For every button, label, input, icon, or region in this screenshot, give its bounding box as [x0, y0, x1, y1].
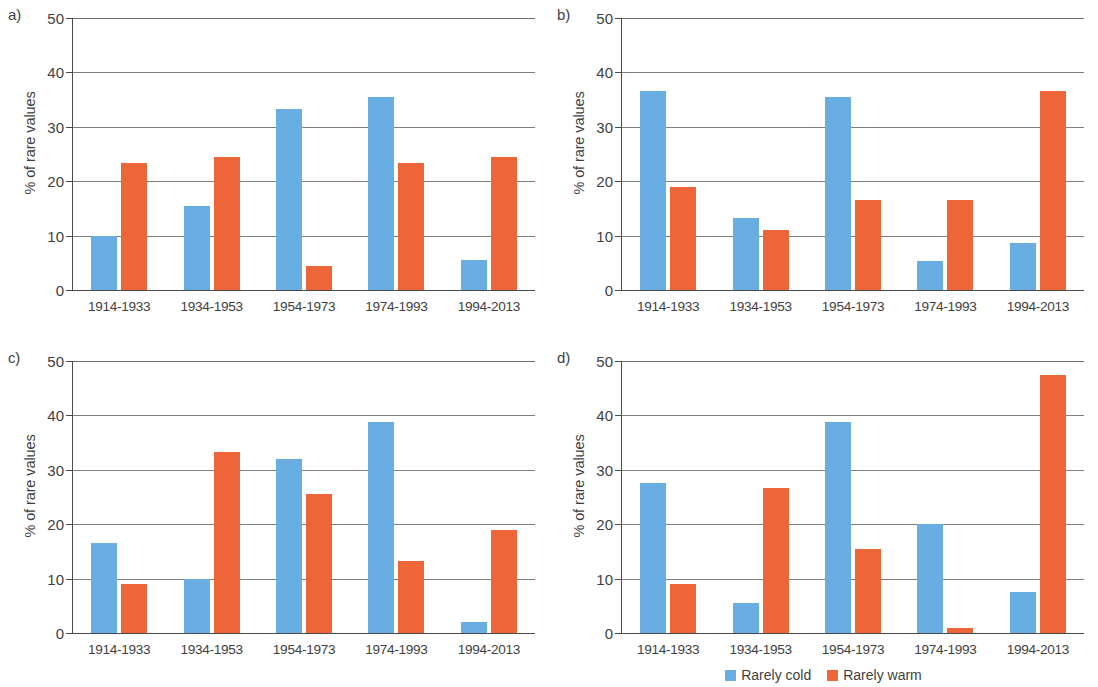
bar-warm [670, 584, 696, 633]
bar-cold [91, 236, 117, 290]
x-tick-label: 1974-1993 [350, 642, 442, 657]
y-tick-label-10: 10 [47, 570, 64, 587]
bar-cold [640, 483, 666, 633]
x-tick-label: 1914-1933 [622, 642, 714, 657]
y-tick-label-40: 40 [596, 407, 613, 424]
bar-cold [368, 422, 394, 633]
y-tick-0 [66, 290, 73, 291]
bar-cold [733, 218, 759, 290]
y-axis-title-a: % of rare values [22, 28, 44, 258]
bar-cold [917, 524, 943, 633]
x-tick-label: 1954-1973 [807, 642, 899, 657]
bar-group [807, 361, 899, 633]
bar-group [992, 18, 1084, 290]
y-tick-label-30: 30 [596, 461, 613, 478]
y-tick-label-0: 0 [605, 625, 613, 642]
bar-warm [214, 157, 240, 290]
bar-group [992, 361, 1084, 633]
y-tick-label-50: 50 [47, 10, 64, 27]
x-tick-label: 1974-1993 [899, 299, 991, 314]
legend-label: Rarely warm [843, 667, 922, 683]
y-tick-label-50: 50 [47, 353, 64, 370]
chart-panel-d: d) % of rare values 01020304050 1914-193… [549, 343, 1098, 687]
bar-group [443, 18, 535, 290]
x-tick-label: 1974-1993 [350, 299, 442, 314]
bar-warm [306, 266, 332, 290]
y-tick-label-20: 20 [47, 173, 64, 190]
x-tick-label: 1934-1953 [165, 299, 257, 314]
y-tick-0 [66, 633, 73, 634]
y-tick-label-20: 20 [596, 516, 613, 533]
bar-warm [491, 530, 517, 633]
y-tick-label-0: 0 [605, 282, 613, 299]
chart-panel-c: c) % of rare values 01020304050 1914-193… [0, 343, 549, 687]
y-tick-label-10: 10 [596, 227, 613, 244]
bar-group [714, 18, 806, 290]
x-tick-label: 1994-2013 [443, 642, 535, 657]
gridline-0 [73, 633, 535, 634]
y-tick-0 [615, 633, 622, 634]
legend-entry: Rarely warm [827, 667, 922, 683]
bar-cold [825, 422, 851, 633]
bar-warm [855, 200, 881, 290]
y-tick-0 [615, 290, 622, 291]
plot-area-a: 01020304050 [73, 18, 535, 290]
gridline-0 [622, 290, 1084, 291]
plot-area-d: 01020304050 [622, 361, 1084, 633]
gridline-0 [622, 633, 1084, 634]
bar-series-c [73, 361, 535, 633]
x-tick-label: 1914-1933 [622, 299, 714, 314]
bar-warm [947, 200, 973, 290]
y-tick-label-10: 10 [596, 570, 613, 587]
bar-warm [1040, 91, 1066, 290]
bar-warm [670, 187, 696, 290]
bar-warm [763, 488, 789, 633]
x-tick-label: 1974-1993 [899, 642, 991, 657]
legend-swatch-icon [827, 670, 838, 681]
bar-warm [398, 163, 424, 290]
x-tick-label: 1994-2013 [992, 299, 1084, 314]
bar-warm [214, 452, 240, 633]
x-tick-label: 1954-1973 [807, 299, 899, 314]
y-tick-label-40: 40 [47, 407, 64, 424]
x-tick-label: 1934-1953 [714, 299, 806, 314]
bar-cold [184, 579, 210, 633]
bar-cold [276, 459, 302, 633]
y-tick-label-0: 0 [56, 625, 64, 642]
bar-cold [640, 91, 666, 290]
bar-warm [855, 549, 881, 633]
x-tick-label: 1994-2013 [443, 299, 535, 314]
x-axis-labels-d: 1914-19331934-19531954-19731974-19931994… [622, 642, 1084, 657]
bar-cold [461, 260, 487, 290]
x-axis-labels-b: 1914-19331934-19531954-19731974-19931994… [622, 299, 1084, 314]
bar-group [443, 361, 535, 633]
x-tick-label: 1994-2013 [992, 642, 1084, 657]
x-tick-label: 1914-1933 [73, 299, 165, 314]
panel-letter-c: c) [8, 349, 20, 366]
panel-letter-a: a) [8, 6, 21, 23]
y-tick-label-20: 20 [47, 516, 64, 533]
y-tick-label-40: 40 [47, 64, 64, 81]
x-tick-label: 1934-1953 [714, 642, 806, 657]
bar-cold [1010, 592, 1036, 633]
legend-entry: Rarely cold [725, 667, 811, 683]
bar-warm [398, 561, 424, 633]
bar-cold [368, 97, 394, 290]
bar-group [899, 361, 991, 633]
y-tick-label-30: 30 [47, 461, 64, 478]
bar-group [350, 361, 442, 633]
bar-cold [91, 543, 117, 633]
legend-swatch-icon [725, 670, 736, 681]
bar-cold [461, 622, 487, 633]
y-tick-label-0: 0 [56, 282, 64, 299]
y-tick-label-40: 40 [596, 64, 613, 81]
legend-label: Rarely cold [741, 667, 811, 683]
bar-series-b [622, 18, 1084, 290]
bar-group [258, 361, 350, 633]
panel-letter-d: d) [557, 349, 570, 366]
gridline-0 [73, 290, 535, 291]
bar-group [807, 18, 899, 290]
bar-cold [184, 206, 210, 290]
figure-panel-grid: a) % of rare values 01020304050 1914-193… [0, 0, 1098, 687]
y-axis-title-c: % of rare values [22, 371, 44, 601]
